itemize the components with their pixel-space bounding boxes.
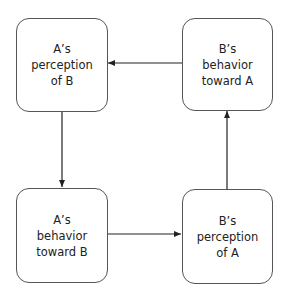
node-a-behavior-toward-b: A’s behavior toward B xyxy=(16,188,108,283)
node-a-perception-of-b: A’s perception of B xyxy=(16,18,108,112)
node-b-perception-of-a: B’s perception of A xyxy=(182,189,273,284)
node-b-behavior-toward-a: B’s behavior toward A xyxy=(182,18,273,111)
node-label: A’s behavior toward B xyxy=(36,212,87,260)
node-label: B’s perception of A xyxy=(197,213,259,261)
node-label: B’s behavior toward A xyxy=(202,41,253,89)
node-label: A’s perception of B xyxy=(31,41,93,89)
